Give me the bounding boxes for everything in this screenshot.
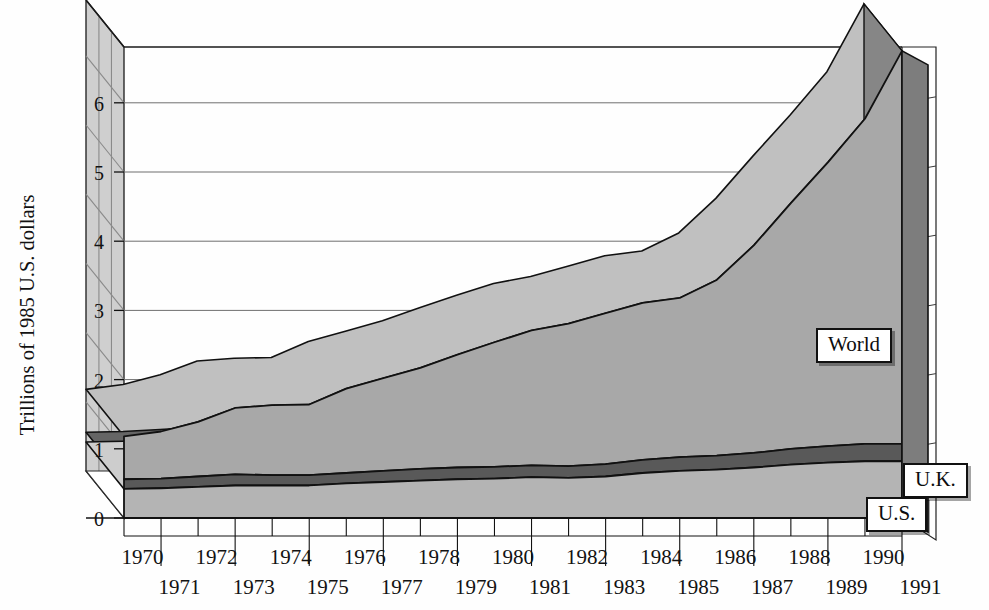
x-tick-label-1987: 1987 (751, 575, 793, 599)
y-axis-title: Trillions of 1985 U.S. dollars (16, 195, 38, 436)
x-tick-label-1977: 1977 (381, 575, 423, 599)
y-tick-label-0: 0 (94, 508, 104, 530)
x-tick-label-1970: 1970 (122, 545, 164, 569)
x-tick-label-1989: 1989 (825, 575, 867, 599)
x-tick-label-1981: 1981 (529, 575, 571, 599)
x-tick-label-1974: 1974 (270, 545, 313, 569)
box-top-edge (86, 0, 902, 47)
stack-right-slab (902, 51, 928, 532)
gdp-area-chart: 0123456Trillions of 1985 U.S. dollars197… (0, 0, 989, 610)
x-tick-label-1991: 1991 (900, 575, 942, 599)
series-face-world (124, 51, 902, 479)
x-tick-label-1984: 1984 (640, 545, 683, 569)
x-tick-label-1983: 1983 (603, 575, 645, 599)
x-tick-label-1976: 1976 (344, 545, 386, 569)
chart-canvas: 0123456Trillions of 1985 U.S. dollars197… (16, 0, 942, 599)
y-tick-label-3: 3 (94, 300, 104, 322)
x-tick-label-1971: 1971 (159, 575, 201, 599)
x-tick-label-1972: 1972 (196, 545, 238, 569)
y-tick-label-2: 2 (94, 370, 104, 392)
x-tick-label-1986: 1986 (714, 545, 756, 569)
x-tick-label-1975: 1975 (307, 575, 349, 599)
x-tick-label-1978: 1978 (418, 545, 460, 569)
x-tick-label-1988: 1988 (788, 545, 830, 569)
x-tick-label-1973: 1973 (233, 575, 275, 599)
y-tick-label-4: 4 (94, 231, 104, 253)
x-tick-label-1990: 1990 (862, 545, 904, 569)
x-tick-label-1985: 1985 (677, 575, 719, 599)
x-tick-label-1980: 1980 (492, 545, 534, 569)
chart-root: 0123456Trillions of 1985 U.S. dollars197… (0, 0, 989, 610)
x-tick-label-1982: 1982 (566, 545, 608, 569)
y-tick-label-1: 1 (94, 439, 104, 461)
x-tick-label-1979: 1979 (455, 575, 497, 599)
y-tick-label-5: 5 (94, 162, 104, 184)
y-tick-label-6: 6 (94, 93, 104, 115)
